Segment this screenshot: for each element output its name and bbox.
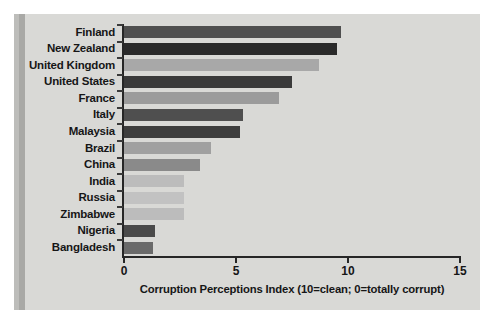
category-label: Italy: [93, 106, 115, 123]
y-axis-tick: [117, 140, 123, 142]
panel-left-band-inner: [14, 14, 19, 310]
bar: [124, 126, 240, 138]
category-label: United States: [44, 73, 115, 90]
bar: [124, 59, 319, 71]
category-label: Russia: [78, 189, 115, 206]
y-axis-tick: [117, 24, 123, 26]
x-axis-tick: [459, 256, 461, 263]
y-axis-tick: [117, 223, 123, 225]
category-label: United Kingdom: [29, 57, 115, 74]
bar-row: Malaysia: [124, 123, 460, 140]
x-axis-tick-label: 5: [233, 264, 240, 278]
bar: [124, 192, 184, 204]
y-axis-tick: [117, 190, 123, 192]
bar: [124, 175, 184, 187]
bar-row: New Zealand: [124, 41, 460, 58]
y-axis-tick: [117, 90, 123, 92]
y-axis-tick: [117, 74, 123, 76]
y-axis-tick: [117, 206, 123, 208]
x-axis-tick: [123, 256, 125, 263]
bar-row: Italy: [124, 107, 460, 124]
bar-row: India: [124, 173, 460, 190]
category-label: Zimbabwe: [60, 206, 115, 223]
bar-row: France: [124, 90, 460, 107]
category-label: Malaysia: [69, 123, 115, 140]
bar-row: China: [124, 157, 460, 174]
x-axis-line: [122, 256, 460, 258]
x-axis-tick: [235, 256, 237, 263]
category-label: Bangladesh: [52, 239, 115, 256]
bar: [124, 109, 243, 121]
x-axis-tick-label: 15: [453, 264, 466, 278]
bar: [124, 225, 155, 237]
y-axis-tick: [117, 107, 123, 109]
bar-row: United States: [124, 74, 460, 91]
y-axis-tick: [117, 239, 123, 241]
x-axis-tick-label: 0: [121, 264, 128, 278]
bar: [124, 43, 337, 55]
category-label: Finland: [76, 24, 116, 41]
bar: [124, 76, 292, 88]
bar-row: Russia: [124, 190, 460, 207]
bar-row: United Kingdom: [124, 57, 460, 74]
y-axis-tick: [117, 173, 123, 175]
category-label: China: [84, 156, 115, 173]
x-axis-tick: [347, 256, 349, 263]
bar: [124, 92, 279, 104]
chart-page: FinlandNew ZealandUnited KingdomUnited S…: [0, 0, 495, 324]
bar-row: Zimbabwe: [124, 206, 460, 223]
category-label: India: [89, 173, 115, 190]
y-axis-tick: [117, 57, 123, 59]
bar: [124, 242, 153, 254]
bar-row: Finland: [124, 24, 460, 41]
bar-row: Brazil: [124, 140, 460, 157]
bar: [124, 26, 341, 38]
plot-area: FinlandNew ZealandUnited KingdomUnited S…: [124, 24, 460, 256]
x-axis-title: Corruption Perceptions Index (10=clean; …: [124, 283, 460, 295]
panel-left-band: [14, 14, 25, 310]
category-label: New Zealand: [47, 40, 115, 57]
y-axis-tick: [117, 157, 123, 159]
bar: [124, 208, 184, 220]
x-axis-tick-label: 10: [341, 264, 354, 278]
bar-row: Nigeria: [124, 223, 460, 240]
bar-row: Bangladesh: [124, 239, 460, 256]
y-axis-tick: [117, 41, 123, 43]
category-label: Nigeria: [77, 222, 115, 239]
bar: [124, 159, 200, 171]
y-axis-tick: [117, 123, 123, 125]
category-label: France: [78, 90, 115, 107]
bar: [124, 142, 211, 154]
category-label: Brazil: [85, 140, 115, 157]
